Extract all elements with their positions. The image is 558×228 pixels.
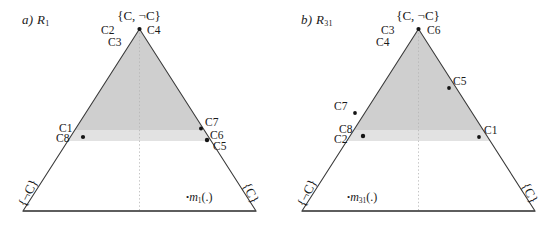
panel-a-label-c5: C5 bbox=[213, 141, 226, 153]
panel-a-mass-symbol: m bbox=[189, 190, 198, 204]
panel-b-label-c2: C2 bbox=[334, 134, 347, 146]
panel-a-mass-annotation: •m1(.) bbox=[186, 190, 213, 205]
panel-b-point-c8-c2 bbox=[361, 134, 365, 138]
panel-a-point-c6-c5 bbox=[205, 138, 209, 142]
panel-a-mass-sub: 1 bbox=[198, 196, 202, 205]
panel-b-mass-symbol: m bbox=[350, 190, 359, 204]
panel-a-shade-lower bbox=[0, 130, 279, 141]
panel-b-point-c5 bbox=[447, 86, 451, 90]
panel-b-label-c5: C5 bbox=[453, 76, 466, 88]
panel-a-point-c1-c8 bbox=[81, 135, 85, 139]
panel-b-point-apex bbox=[416, 27, 420, 31]
panel-b: b) R31 {C, ¬C} C3 C4 C6 C7 C bbox=[279, 0, 558, 228]
panel-a-triangle-graphic bbox=[0, 0, 279, 228]
panel-b-label-c1: C1 bbox=[484, 125, 497, 137]
panel-b-point-c7 bbox=[353, 111, 357, 115]
panel-b-mass-suffix: (.) bbox=[366, 190, 377, 204]
panel-a: a) R1 {C, ¬C} C bbox=[0, 0, 279, 228]
panel-a-point-c7 bbox=[199, 127, 203, 131]
panel-b-label-c6: C6 bbox=[427, 25, 440, 37]
panel-b-point-c1 bbox=[477, 135, 481, 139]
panel-b-mass-bullet: • bbox=[347, 192, 350, 202]
panel-a-label-c8: C8 bbox=[56, 133, 69, 145]
panel-b-mass-annotation: •m31(.) bbox=[347, 190, 377, 205]
panel-a-label-c3: C3 bbox=[108, 37, 121, 49]
panel-a-mass-suffix: (.) bbox=[202, 190, 213, 204]
panel-b-triangle-graphic bbox=[279, 0, 558, 228]
panel-b-label-c7: C7 bbox=[334, 101, 347, 113]
panel-b-mass-sub: 31 bbox=[359, 196, 367, 205]
panel-a-label-c4: C4 bbox=[147, 25, 160, 37]
panel-a-point-apex bbox=[137, 27, 141, 31]
panel-a-label-c7: C7 bbox=[205, 117, 218, 129]
panel-b-shade-lower bbox=[279, 130, 558, 141]
figure-two-simplex-triangles: a) R1 {C, ¬C} C bbox=[0, 0, 558, 228]
panel-a-mass-bullet: • bbox=[186, 192, 189, 202]
panel-b-label-c4: C4 bbox=[376, 37, 389, 49]
